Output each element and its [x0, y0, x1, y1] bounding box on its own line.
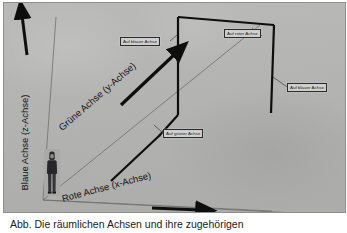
callout-auf-blauer-achse-rechts: Auf blauer Achse	[287, 83, 327, 92]
figure-caption: Abb. Die räumlichen Achsen und ihre zuge…	[10, 218, 340, 233]
leader-blau-links	[170, 35, 177, 41]
structure-top-edge	[178, 17, 274, 25]
callout-auf-gruener-achse: Auf grüner Achse	[163, 129, 203, 138]
construction-axes	[43, 17, 334, 212]
diagram-image-panel: Auf blauer Achse Auf roter Achse Auf bla…	[3, 2, 346, 213]
red-axis-arrow	[152, 208, 200, 210]
structure-right-edge	[271, 25, 274, 113]
leader-blau-rechts	[273, 77, 287, 87]
axis-diagram-figure: Auf blauer Achse Auf roter Achse Auf bla…	[0, 0, 347, 233]
callout-auf-blauer-achse-links: Auf blauer Achse	[120, 37, 160, 46]
leader-gruen	[154, 125, 163, 133]
callout-auf-roter-achse: Auf roter Achse	[224, 29, 261, 38]
blue-axis-arrow	[22, 15, 27, 55]
human-scale-figure	[44, 149, 60, 196]
axis-label-blue: Blaue Achse (z-Achse)	[19, 89, 30, 197]
callout-leader-lines	[154, 28, 287, 133]
human-silhouette-icon	[44, 149, 60, 196]
